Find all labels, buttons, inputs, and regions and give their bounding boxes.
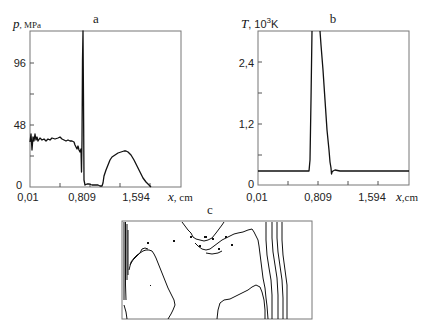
chart-a-xlabel: x, cm [167,189,193,204]
chart-b-frame [258,31,409,185]
chart-b-temperature-curve [258,31,312,171]
chart-b-xtick-1-594: 1,594 [358,191,386,203]
chart-b-y-ticks [258,62,262,155]
chart-a-x-ticks [60,183,150,187]
chart-b-temperature-curve-falling [320,31,409,174]
chart-c-speckle [147,236,233,286]
chart-a-ylabel: p, MPa [12,16,41,31]
chart-a-xtick-0-809: 0,809 [68,191,96,203]
chart-a-xtick-0-01: 0,01 [17,191,38,203]
chart-b-ytick-1-2: 1,2 [239,118,254,130]
figure: 96 48 0 0,01 0,809 1,594 p, MPa x, cm a [0,0,431,333]
chart-a-xtick-1-594: 1,594 [122,191,150,203]
chart-c: c [122,202,312,319]
chart-b-xtick-0-809: 0,809 [304,191,332,203]
chart-b-ylabel: T, 103K [241,16,279,31]
chart-b-title: b [330,11,337,26]
chart-b: 2,4 1,2 0 0,01 0,809 1,594 T, 103K x,cm … [239,11,419,204]
chart-a-ytick-48: 48 [14,119,26,131]
chart-a-title: a [93,11,99,26]
chart-b-ytick-0: 0 [248,178,254,190]
chart-b-xtick-0-01: 0,01 [246,191,267,203]
chart-a-ytick-96: 96 [14,57,26,69]
chart-c-title: c [207,202,213,217]
chart-b-ytick-2-4: 2,4 [239,57,254,69]
chart-b-xlabel: x,cm [395,189,418,204]
chart-b-x-ticks [288,181,378,185]
chart-a-ytick-0: 0 [16,179,22,191]
chart-a: 96 48 0 0,01 0,809 1,594 p, MPa x, cm a [12,11,193,204]
chart-a-pressure-curve [30,31,151,187]
chart-a-frame [30,31,181,187]
